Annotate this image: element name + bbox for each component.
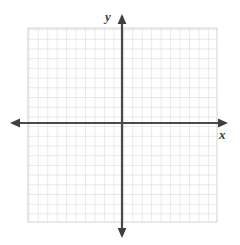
- y-axis-label: y: [105, 10, 111, 23]
- x-axis-label: x: [219, 128, 226, 141]
- y-axis-arrow-top: [118, 14, 127, 24]
- coordinate-grid-figure: y x: [0, 0, 240, 245]
- coordinate-plane-svg: [0, 0, 240, 245]
- x-axis-arrow-left: [10, 119, 20, 128]
- y-axis-arrow-bottom: [118, 228, 127, 238]
